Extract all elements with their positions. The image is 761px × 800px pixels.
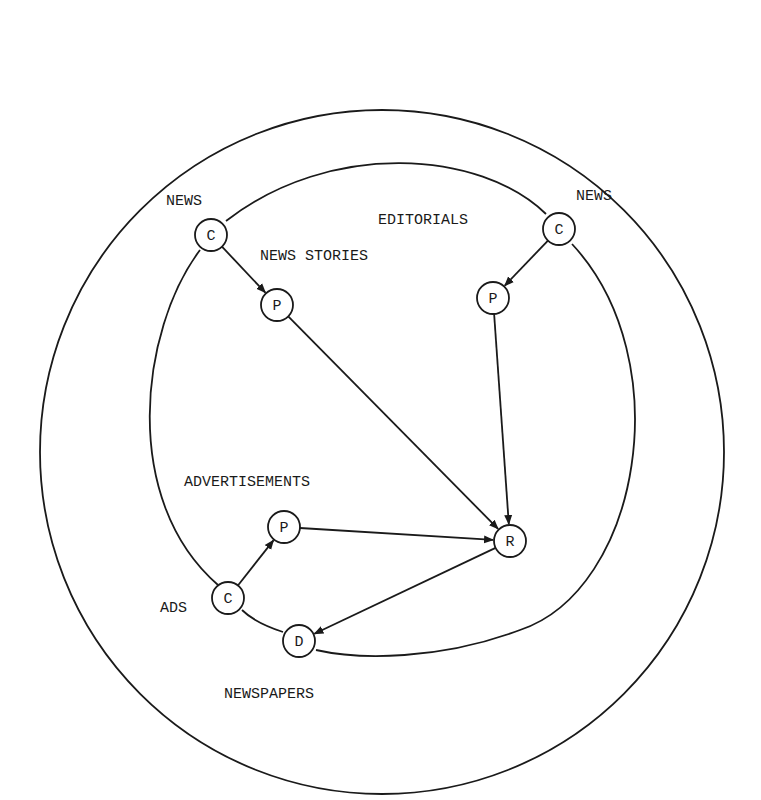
label-news-right: NEWS xyxy=(576,188,612,205)
node-r-center: R xyxy=(494,525,526,557)
label-ads: ADS xyxy=(160,600,187,617)
node-letter: P xyxy=(488,291,497,308)
node-p-editorials: P xyxy=(477,282,509,314)
node-letter: C xyxy=(554,222,563,239)
node-c-ads: C xyxy=(212,582,244,614)
arrow-p-editorials-to-r-center xyxy=(494,314,509,524)
arrow-c-news-right-to-p-editorials xyxy=(505,241,548,286)
node-letter: P xyxy=(279,520,288,537)
node-c-news-left: C xyxy=(195,219,227,251)
label-news-left: NEWS xyxy=(166,193,202,210)
label-editorials: EDITORIALS xyxy=(378,212,468,229)
arrow-r-center-to-d-newspapers xyxy=(314,548,495,634)
arrow-c-news-left-to-p-news-stories xyxy=(222,247,265,293)
node-d-newspapers: D xyxy=(283,625,315,657)
node-letter: C xyxy=(223,591,232,608)
node-c-news-right: C xyxy=(543,213,575,245)
arrow-p-ads-to-r-center xyxy=(300,528,493,540)
node-letter: P xyxy=(272,298,281,315)
node-letter: C xyxy=(206,228,215,245)
label-advertisements: ADVERTISEMENTS xyxy=(184,474,310,491)
node-p-ads: P xyxy=(268,511,300,543)
arrow-p-news-stories-to-r-center xyxy=(288,316,498,529)
node-letter: R xyxy=(505,534,514,551)
arrow-c-ads-to-p-ads xyxy=(238,540,274,585)
node-letter: D xyxy=(294,634,303,651)
node-p-news-stories: P xyxy=(261,289,293,321)
newspaper-flow-diagram: CPCPPCRD NEWSNEWS STORIESEDITORIALSNEWSA… xyxy=(0,0,761,800)
label-news-stories: NEWS STORIES xyxy=(260,248,368,265)
label-newspapers: NEWSPAPERS xyxy=(224,686,314,703)
labels: NEWSNEWS STORIESEDITORIALSNEWSADVERTISEM… xyxy=(160,188,612,703)
